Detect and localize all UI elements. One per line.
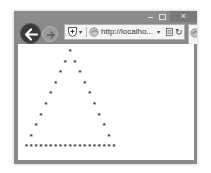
url-text[interactable]: http://localho... — [101, 25, 153, 39]
refresh-icon[interactable]: ↻ — [175, 26, 183, 38]
back-button[interactable] — [20, 23, 41, 44]
maximize-icon — [159, 14, 166, 20]
page-viewport: * * * * * * * * * * * * * * * * * ******… — [18, 44, 194, 160]
forward-button[interactable] — [42, 26, 58, 42]
shield-dropdown-icon[interactable]: ▾ — [79, 25, 82, 39]
url-dropdown-icon[interactable]: ▾ — [157, 25, 160, 39]
address-bar[interactable]: ▾ http://localho... ▾ ↻ — [64, 24, 185, 40]
compatibility-view-icon[interactable] — [166, 28, 173, 36]
minimize-button[interactable] — [144, 11, 156, 22]
address-separator — [86, 27, 87, 37]
browser-tab[interactable] — [188, 24, 197, 44]
shield-icon[interactable] — [68, 27, 77, 37]
title-bar[interactable]: × — [14, 11, 197, 22]
back-arrow-icon — [21, 24, 42, 45]
ie-page-icon — [89, 27, 99, 37]
close-button[interactable]: × — [170, 11, 197, 22]
browser-window: × ▾ http://localho... ▾ — [14, 11, 197, 164]
forward-arrow-icon — [43, 27, 59, 43]
minimize-icon — [148, 17, 153, 18]
close-icon: × — [181, 11, 186, 21]
maximize-button[interactable] — [156, 11, 169, 22]
asterisk-triangle: * * * * * * * * * * * * * * * * * ******… — [24, 47, 116, 153]
navigation-bar: ▾ http://localho... ▾ ↻ — [14, 22, 197, 44]
tab-favicon-icon — [190, 28, 197, 38]
